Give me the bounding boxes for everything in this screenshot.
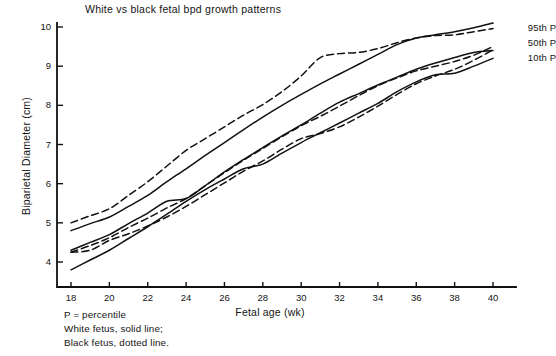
footnote-line-white: White fetus, solid line; [64, 323, 163, 334]
footnote-line-percentile: P = percentile [64, 309, 126, 320]
y-tick-label: 9 [27, 60, 51, 71]
y-tick-label: 7 [27, 139, 51, 150]
y-tick-label: 5 [27, 217, 51, 228]
x-tick-label: 36 [404, 292, 428, 303]
x-tick-label: 34 [366, 292, 390, 303]
curve-solid-50th-p [71, 51, 493, 251]
x-tick-label: 20 [97, 292, 121, 303]
x-tick-label: 40 [481, 292, 505, 303]
x-tick-label: 38 [443, 292, 467, 303]
y-tick-label: 4 [27, 256, 51, 267]
y-tick-label: 6 [27, 178, 51, 189]
x-tick-label: 26 [212, 292, 236, 303]
series-label-p10: 10th P [528, 52, 556, 63]
x-tick-label: 24 [174, 292, 198, 303]
x-tick-label: 32 [328, 292, 352, 303]
x-tick-label: 30 [289, 292, 313, 303]
series-label-p95: 95th P [528, 22, 556, 33]
data-curves [71, 23, 493, 270]
curve-dashed-95th-p [71, 29, 493, 223]
series-label-p50: 50th P [528, 37, 556, 48]
x-tick-label: 22 [136, 292, 160, 303]
axes [57, 23, 516, 287]
x-tick-label: 18 [59, 292, 83, 303]
y-tick-label: 10 [27, 21, 51, 32]
y-tick-label: 8 [27, 99, 51, 110]
footnote-line-black: Black fetus, dotted line. [64, 337, 169, 348]
curve-solid-95th-p [71, 23, 493, 231]
curve-dashed-10th-p [71, 50, 493, 252]
x-tick-label: 28 [251, 292, 275, 303]
curve-solid-10th-p [71, 58, 493, 269]
